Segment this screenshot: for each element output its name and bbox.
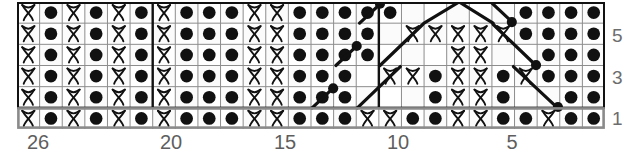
chart-grid	[17, 2, 605, 129]
column-label-5: 5	[492, 131, 532, 154]
column-label-10: 10	[378, 131, 418, 154]
column-label-20: 20	[151, 131, 191, 154]
row-label-3: 3	[612, 67, 636, 88]
column-label-15: 15	[265, 131, 305, 154]
column-label-26: 26	[18, 131, 58, 154]
row-label-1: 1	[612, 108, 636, 129]
knitting-chart: 5 3 1 26 20 15 10 5	[0, 0, 638, 161]
row-label-5: 5	[612, 25, 636, 46]
chart-grid-svg	[17, 2, 605, 129]
